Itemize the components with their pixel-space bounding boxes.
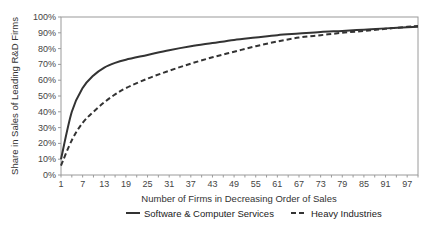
- x-tick-label: 1: [58, 179, 63, 189]
- plot-area: [61, 17, 418, 175]
- x-tick-label: 97: [402, 179, 412, 189]
- x-tick-label: 7: [80, 179, 85, 189]
- y-tick-label: 90%: [38, 28, 56, 38]
- y-tick-label: 40%: [38, 107, 56, 117]
- y-tick-label: 0%: [43, 170, 56, 180]
- y-tick-label: 50%: [38, 91, 56, 101]
- line-chart: 0%10%20%30%40%50%60%70%80%90%100% 171319…: [0, 0, 432, 232]
- x-tick-label: 61: [272, 179, 282, 189]
- y-tick-label: 70%: [38, 59, 56, 69]
- x-tick-label: 85: [359, 179, 369, 189]
- x-tick-label: 91: [381, 179, 391, 189]
- x-tick-label: 13: [99, 179, 109, 189]
- x-tick-label: 19: [121, 179, 131, 189]
- x-tick-label: 31: [164, 179, 174, 189]
- x-tick-label: 55: [251, 179, 261, 189]
- x-tick-label: 67: [294, 179, 304, 189]
- series-line-heavy-industries: [61, 26, 418, 166]
- y-tick-label: 20%: [38, 138, 56, 148]
- y-axis-title: Share in Sales of Leading R&D Firms: [9, 17, 20, 175]
- x-tick-label: 25: [143, 179, 153, 189]
- y-axis-ticks: 0%10%20%30%40%50%60%70%80%90%100%: [33, 12, 61, 180]
- y-tick-label: 100%: [33, 12, 56, 22]
- x-tick-label: 79: [337, 179, 347, 189]
- y-tick-label: 60%: [38, 75, 56, 85]
- series-layer: [61, 26, 418, 166]
- x-axis-ticks: 17131925313743495561677379859197: [58, 175, 418, 189]
- y-tick-label: 80%: [38, 44, 56, 54]
- legend-label-heavy: Heavy Industries: [311, 208, 382, 219]
- y-tick-label: 10%: [38, 154, 56, 164]
- series-line-software: [61, 27, 418, 159]
- x-axis-title: Number of Firms in Decreasing Order of S…: [141, 193, 337, 204]
- x-tick-label: 73: [316, 179, 326, 189]
- legend: Software & Computer Services Heavy Indus…: [126, 208, 382, 219]
- x-tick-label: 37: [186, 179, 196, 189]
- x-tick-label: 43: [207, 179, 217, 189]
- legend-label-software: Software & Computer Services: [144, 208, 274, 219]
- y-tick-label: 30%: [38, 123, 56, 133]
- x-tick-label: 49: [229, 179, 239, 189]
